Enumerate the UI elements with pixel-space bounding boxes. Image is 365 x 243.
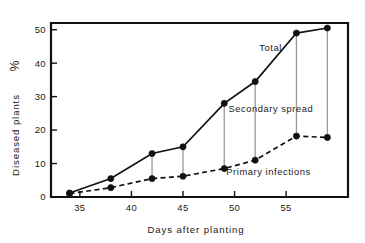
y-axis-tick-labels: 0 10 20 30 40 50 [35,24,46,202]
y-tick-label: 20 [35,124,46,135]
line-chart-canvas: 0 10 20 30 40 50 35 40 45 50 55 Days aft… [0,0,365,243]
y-tick-label: 40 [35,58,46,69]
x-tick-label: 35 [74,202,85,213]
x-tick-label: 55 [280,202,291,213]
y-axis-unit-glyph: % [8,60,22,71]
x-axis-title: Days after planting [147,224,244,235]
chart-figure: 0 10 20 30 40 50 35 40 45 50 55 Days aft… [0,0,365,243]
x-tick-label: 45 [177,202,188,213]
x-axis-tick-labels: 35 40 45 50 55 [74,202,292,213]
y-tick-label: 10 [35,158,46,169]
x-tick-label: 40 [126,202,137,213]
y-tick-label: 50 [35,24,46,35]
y-axis-title: Diseased plants [10,94,21,176]
x-tick-label: 50 [229,202,240,213]
series-line-primary-infections [70,136,328,194]
y-tick-label: 30 [35,91,46,102]
annotation-primary-infections: Primary infections [226,166,310,177]
annotation-total: Total [259,42,282,53]
annotation-secondary-spread: Secondary spread [228,103,313,114]
series-markers-primary-infections [66,133,330,197]
y-tick-label: 0 [40,191,46,202]
